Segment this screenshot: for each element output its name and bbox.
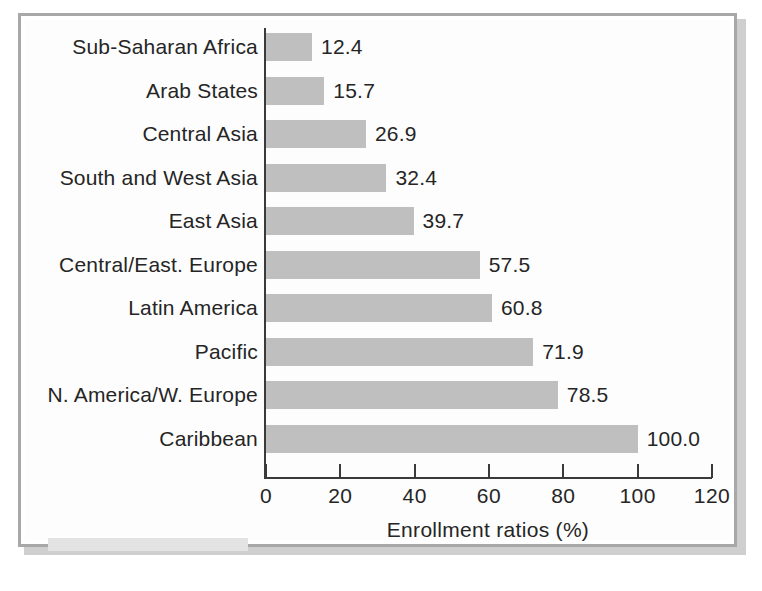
category-label: Pacific: [195, 338, 258, 366]
bar[interactable]: [266, 381, 558, 409]
category-label: Central/East. Europe: [59, 251, 258, 279]
chart-row: South and West Asia32.4: [0, 164, 762, 192]
bar[interactable]: [266, 294, 492, 322]
chart-row: Caribbean100.0: [0, 425, 762, 453]
bar[interactable]: [266, 207, 414, 235]
x-axis-tick: [711, 464, 713, 478]
bar-value-label: 57.5: [489, 251, 531, 279]
x-axis-tick: [488, 464, 490, 478]
category-label: N. America/W. Europe: [47, 381, 258, 409]
bar-value-label: 32.4: [395, 164, 437, 192]
x-axis-tick: [265, 464, 267, 478]
bar[interactable]: [266, 77, 324, 105]
bar-value-label: 26.9: [375, 120, 417, 148]
category-label: Arab States: [146, 77, 258, 105]
x-axis-tick-label: 40: [385, 484, 445, 508]
bar[interactable]: [266, 251, 480, 279]
x-axis-tick: [414, 464, 416, 478]
x-axis-tick: [562, 464, 564, 478]
bar[interactable]: [266, 33, 312, 61]
bar-chart-plot: Enrollment ratios (%) 020406080100120Sub…: [0, 0, 762, 591]
bar[interactable]: [266, 338, 533, 366]
chart-row: East Asia39.7: [0, 207, 762, 235]
chart-row: N. America/W. Europe78.5: [0, 381, 762, 409]
x-axis-tick-label: 0: [236, 484, 296, 508]
bar-value-label: 39.7: [423, 207, 465, 235]
bar-value-label: 60.8: [501, 294, 543, 322]
chart-row: Sub-Saharan Africa12.4: [0, 33, 762, 61]
category-label: Central Asia: [142, 120, 258, 148]
bar[interactable]: [266, 120, 366, 148]
bar-value-label: 100.0: [647, 425, 701, 453]
x-axis-tick: [339, 464, 341, 478]
category-label: South and West Asia: [60, 164, 258, 192]
x-axis-tick-label: 60: [459, 484, 519, 508]
x-axis-tick-label: 100: [608, 484, 668, 508]
category-label: East Asia: [169, 207, 258, 235]
chart-row: Central/East. Europe57.5: [0, 251, 762, 279]
bar-value-label: 78.5: [567, 381, 609, 409]
bar-value-label: 12.4: [321, 33, 363, 61]
chart-row: Pacific71.9: [0, 338, 762, 366]
bar-value-label: 15.7: [333, 77, 375, 105]
x-axis-tick: [637, 464, 639, 478]
x-axis-title: Enrollment ratios (%): [264, 518, 712, 542]
category-label: Caribbean: [159, 425, 258, 453]
x-axis-tick-label: 80: [533, 484, 593, 508]
x-axis-tick-label: 120: [682, 484, 742, 508]
category-label: Latin America: [128, 294, 258, 322]
chart-row: Latin America60.8: [0, 294, 762, 322]
chart-row: Arab States15.7: [0, 77, 762, 105]
category-label: Sub-Saharan Africa: [72, 33, 258, 61]
chart-row: Central Asia26.9: [0, 120, 762, 148]
chart-screenshot: Enrollment ratios (%) 020406080100120Sub…: [0, 0, 762, 591]
bar[interactable]: [266, 425, 638, 453]
bar[interactable]: [266, 164, 386, 192]
bar-value-label: 71.9: [542, 338, 584, 366]
x-axis-tick-label: 20: [310, 484, 370, 508]
